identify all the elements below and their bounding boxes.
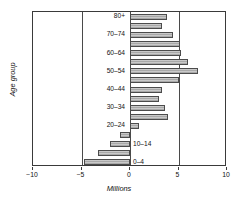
bar-25-29	[33, 114, 225, 120]
x-tick--10	[32, 167, 33, 170]
bar-30-34	[33, 105, 225, 111]
bar-55-59	[33, 59, 225, 65]
bar-0-4	[33, 159, 225, 165]
x-tick-label-5: 5	[163, 171, 193, 178]
bar-rect-10-14	[110, 141, 130, 147]
category-label-50-54: 50–54	[107, 68, 125, 74]
bar-5-9	[33, 150, 225, 156]
bar-rect-55-59	[130, 59, 188, 65]
bar-50-54	[33, 68, 225, 74]
bar-75-79	[33, 23, 225, 29]
category-label-60-64: 60–64	[107, 50, 125, 56]
category-label-40-44: 40–44	[107, 86, 125, 92]
category-label-0-4: 0–4	[133, 159, 144, 165]
bar-rect-80+	[130, 14, 167, 20]
bar-rect-50-54	[130, 68, 198, 74]
bar-20-24	[33, 123, 225, 129]
bar-rect-45-49	[130, 77, 179, 83]
bar-rect-25-29	[130, 114, 168, 120]
bar-rect-75-79	[130, 23, 162, 29]
x-tick-5	[178, 167, 179, 170]
bar-rect-5-9	[98, 150, 130, 156]
bar-rect-70-74	[130, 32, 173, 38]
bar-35-39	[33, 96, 225, 102]
bar-rect-30-34	[130, 105, 165, 111]
x-tick-label-10: 10	[211, 171, 238, 178]
bar-rect-60-64	[130, 50, 181, 56]
bar-40-44	[33, 87, 225, 93]
x-tick--5	[81, 167, 82, 170]
bar-rect-0-4	[84, 159, 130, 165]
category-label-20-24: 20–24	[107, 122, 125, 128]
bar-rect-40-44	[130, 87, 162, 93]
population-pyramid-chart: 0–410–1420–2430–3440–4450–5460–6470–7480…	[0, 0, 238, 209]
x-tick-label--5: −5	[66, 171, 96, 178]
bar-45-49	[33, 77, 225, 83]
bar-rect-20-24	[130, 123, 139, 129]
bar-15-19	[33, 132, 225, 138]
category-label-10-14: 10–14	[133, 141, 151, 147]
bar-60-64	[33, 50, 225, 56]
category-label-30-34: 30–34	[107, 104, 125, 110]
category-label-80+: 80+	[114, 13, 125, 19]
y-axis-title: Age group	[8, 42, 17, 118]
bar-65-69	[33, 41, 225, 47]
bar-10-14	[33, 141, 225, 147]
bar-80+	[33, 14, 225, 20]
x-tick-10	[226, 167, 227, 170]
plot-area: 0–410–1420–2430–3440–4450–5460–6470–7480…	[32, 11, 226, 166]
x-tick-label--10: −10	[17, 171, 47, 178]
bar-rect-65-69	[130, 41, 180, 47]
bar-rect-15-19	[120, 132, 130, 138]
bar-70-74	[33, 32, 225, 38]
category-label-70-74: 70–74	[107, 31, 125, 37]
x-axis-title: Millions	[0, 184, 238, 193]
x-tick-0	[129, 167, 130, 170]
x-tick-label-0: 0	[114, 171, 144, 178]
bar-rect-35-39	[130, 96, 159, 102]
